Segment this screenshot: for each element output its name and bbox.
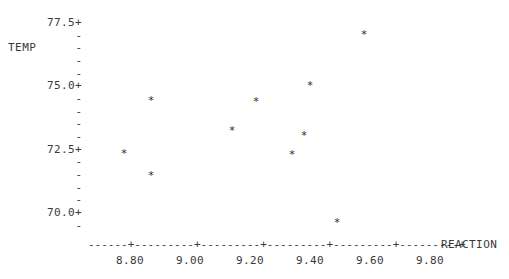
data-point-marker: *	[287, 148, 298, 159]
x-axis-line: ------+---------+---------+---------+---…	[88, 238, 466, 251]
data-point-marker: *	[299, 129, 310, 140]
x-axis-tick-label: 8.80	[116, 254, 144, 267]
data-point-marker: *	[119, 148, 130, 159]
x-axis-title: REACTION	[441, 238, 497, 251]
data-point-marker: *	[305, 80, 316, 91]
x-axis-tick-label: 9.60	[356, 254, 384, 267]
data-point-marker: *	[251, 96, 262, 107]
data-point-marker: *	[332, 217, 343, 228]
x-axis-tick-label: 9.00	[176, 254, 204, 267]
data-point-marker: *	[146, 170, 157, 181]
x-axis-tick-label: 9.80	[416, 254, 444, 267]
x-axis-tick-label: 9.20	[236, 254, 264, 267]
data-point-marker: *	[227, 125, 238, 136]
data-point-marker: *	[359, 29, 370, 40]
ascii-scatter-plot: TEMP 77.5+----75.0+----72.5+----70.0+- *…	[0, 0, 509, 279]
x-axis-tick-label: 9.40	[296, 254, 324, 267]
data-point-marker: *	[146, 95, 157, 106]
